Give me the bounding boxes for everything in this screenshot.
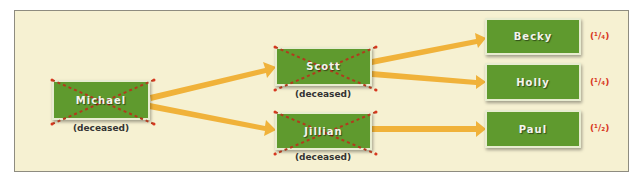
arrow-michael-jillian — [149, 103, 276, 136]
node-label: Holly — [516, 77, 550, 88]
node-michael: Michael — [52, 80, 150, 120]
node-holly: Holly — [485, 63, 581, 101]
node-label: Becky — [514, 31, 553, 42]
node-scott: Scott — [275, 47, 372, 86]
share-fraction: (¹/₄) — [590, 77, 609, 87]
node-label: Jillian — [304, 126, 342, 137]
node-becky: Becky — [485, 18, 581, 55]
arrow-scott-holly — [372, 71, 486, 89]
node-label: Scott — [306, 61, 341, 72]
share-fraction: (¹/₂) — [590, 123, 609, 133]
arrow-michael-scott — [150, 62, 276, 101]
arrow-jillian-paul — [372, 121, 486, 137]
arrow-scott-becky — [372, 33, 486, 65]
node-label: Paul — [519, 124, 547, 135]
node-paul: Paul — [485, 110, 581, 148]
node-label: Michael — [76, 95, 126, 106]
share-fraction: (¹/₄) — [590, 31, 609, 41]
node-jillian: Jillian — [275, 112, 372, 150]
